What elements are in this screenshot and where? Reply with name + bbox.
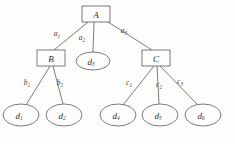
edge-a3-label: a3: [121, 26, 128, 36]
edge-b2-subscript: 2: [61, 82, 64, 88]
edge-c3-subscript: 3: [180, 81, 183, 87]
edge-c1-label: c1: [126, 78, 132, 88]
edge-b1-subscript: 1: [28, 82, 31, 88]
node-d4-subscript: 4: [117, 115, 120, 121]
node-A-label: A: [92, 10, 99, 20]
edge-a3-subscript: 3: [125, 30, 128, 36]
node-B-label: B: [48, 54, 54, 64]
node-group: [3, 6, 221, 126]
edge-a2-label: a2: [79, 33, 86, 43]
edge-c2-label: c2: [156, 80, 162, 90]
edge-a3-line: [108, 22, 152, 50]
edge-a1-subscript: 1: [58, 33, 61, 39]
node-d5-subscript: 5: [159, 115, 162, 121]
edge-c1-subscript: 1: [129, 82, 132, 88]
node-d3-subscript: 3: [92, 61, 95, 67]
node-C-label: C: [153, 54, 160, 64]
tree-diagram-canvas: A B d3 C d1 d2 d4 d5 d6 a1 a2 a3 b1 b2 c…: [0, 0, 235, 144]
node-d2-subscript: 2: [63, 115, 66, 121]
edge-c3-label: c3: [177, 77, 183, 87]
node-d1-subscript: 1: [20, 115, 23, 121]
edge-a2-subscript: 2: [83, 37, 86, 43]
edge-b2-label: b2: [57, 78, 64, 88]
edge-c2-subscript: 2: [159, 84, 162, 90]
tree-diagram: A B d3 C d1 d2 d4 d5 d6 a1 a2 a3 b1 b2 c…: [0, 0, 235, 144]
node-d6-subscript: 6: [202, 115, 205, 121]
edge-b1-label: b1: [24, 78, 31, 88]
edge-a1-label: a1: [54, 29, 61, 39]
edge-a2-line: [93, 22, 94, 52]
